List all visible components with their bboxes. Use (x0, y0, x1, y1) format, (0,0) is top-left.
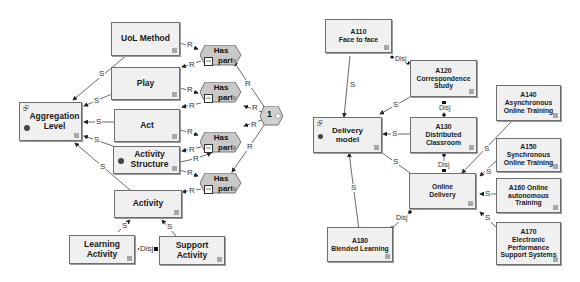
r-label: R (186, 41, 194, 49)
s-label: S (392, 158, 399, 166)
a140-node[interactable]: A140 Asynchronous Online Training (496, 85, 561, 121)
node-label: Play (137, 79, 155, 89)
corner-handle-icon (232, 96, 236, 100)
s-label: S (392, 101, 399, 109)
disj-label: Disj (437, 161, 451, 169)
activity-node[interactable]: Activity (114, 190, 182, 218)
node-label: A110 Face to face (339, 28, 378, 44)
a120-node[interactable]: A120 Correspondence Study (410, 60, 477, 97)
node-label: Online Delivery (429, 183, 455, 199)
node-label: A150 Synchronous Online Training (504, 143, 553, 166)
s-label: S (485, 168, 492, 176)
node-label: A180 Blended Learning (331, 237, 388, 253)
corner-handle-icon (232, 146, 236, 150)
node-label: Aggregation Level (21, 112, 79, 132)
has-part-label-2: part (218, 94, 233, 103)
corner-handle-icon (172, 48, 177, 53)
s-label: S (93, 136, 100, 144)
s-label: S (483, 145, 490, 153)
delivery-model-node[interactable]: ⮺ Delivery model (313, 117, 382, 153)
s-label: S (98, 70, 105, 78)
part-symbol-icon: ⇨ (204, 185, 213, 194)
s-label: S (391, 130, 398, 138)
has-part-node-1[interactable]: Has ⇨ part (200, 45, 242, 66)
corner-handle-icon (469, 89, 474, 94)
act-node[interactable]: Act (114, 109, 180, 142)
corner-handle-icon (385, 254, 390, 259)
corner-handle-icon (172, 134, 177, 139)
dot-icon (118, 158, 124, 164)
aggregation-level-node[interactable]: ⮺ Aggregation Level (19, 102, 82, 141)
corner-handle-icon (553, 257, 558, 262)
node-label: A170 Electronic Performance Support Syst… (501, 228, 557, 259)
s-label: S (121, 222, 128, 230)
corner-handle-icon (232, 187, 236, 191)
r-label: R (188, 187, 196, 195)
a180-node[interactable]: A180 Blended Learning (327, 227, 393, 262)
corner-handle-icon (172, 92, 177, 97)
a130-node[interactable]: A130 Distributed Classroom (410, 117, 477, 153)
has-part-label-1: Has (200, 134, 242, 143)
has-part-label-2: part (218, 185, 233, 194)
corner-handle-icon (553, 164, 558, 169)
corner-handle-icon (74, 133, 79, 138)
has-part-label-1: Has (200, 175, 242, 184)
s-label: S (93, 97, 100, 105)
corner-handle-icon (469, 145, 474, 150)
activity-structure-node[interactable]: Activity Structure (113, 146, 180, 174)
support-activity-node[interactable]: Support Activity (159, 236, 225, 265)
a160-node[interactable]: A160 Online autonomous Training (496, 178, 561, 213)
node-label: A120 Correspondence Study (416, 67, 470, 90)
part-symbol-icon: ⇨ (204, 57, 213, 66)
has-part-node-2[interactable]: Has ⇨ part (200, 82, 242, 103)
s-label: S (349, 81, 356, 89)
has-part-label-1: Has (200, 47, 242, 56)
disj-label: Disj (139, 245, 154, 253)
uol-method-node[interactable]: UoL Method (111, 22, 180, 56)
s-label: S (166, 223, 173, 231)
node-label: Delivery model (332, 126, 363, 144)
corner-handle-icon (553, 113, 558, 118)
corner-handle-icon (174, 210, 179, 215)
r-label: R (246, 143, 254, 151)
r-label: R (251, 104, 259, 112)
s-label: S (95, 118, 102, 126)
learning-activity-node[interactable]: Learning Activity (69, 235, 135, 264)
r-label: R (188, 61, 196, 69)
r-label: R (186, 169, 194, 177)
shape-symbol-icon: ⮺ (23, 105, 29, 113)
has-part-label-2: part (218, 57, 233, 66)
shape-symbol-icon: ⮺ (317, 120, 323, 128)
node-label: A140 Asynchronous Online Training (504, 91, 553, 114)
node-label: Learning Activity (84, 240, 120, 260)
corner-handle-icon (553, 205, 558, 210)
cardinality-value: 1 (267, 110, 272, 120)
dot-icon (318, 134, 323, 139)
s-label: S (484, 190, 491, 198)
node-label: UoL Method (121, 34, 170, 44)
corner-handle-icon (468, 201, 473, 206)
a150-node[interactable]: A150 Synchronous Online Training (496, 138, 561, 172)
has-part-label-1: Has (200, 84, 242, 93)
r-label: R (244, 80, 252, 88)
corner-handle-icon (127, 256, 132, 261)
node-label: A160 Online autonomous Training (508, 184, 549, 207)
corner-handle-icon (374, 145, 379, 150)
a110-node[interactable]: A110 Face to face (325, 19, 392, 53)
online-delivery-node[interactable]: Online Delivery (409, 173, 476, 209)
s-label: S (99, 163, 106, 171)
a170-node[interactable]: A170 Electronic Performance Support Syst… (496, 222, 561, 265)
r-label: R (250, 121, 258, 129)
has-part-node-3[interactable]: Has ⇨ part (200, 132, 242, 153)
play-node[interactable]: Play (111, 67, 180, 100)
corner-handle-icon (232, 59, 236, 63)
dot-icon (24, 125, 30, 131)
r-label: R (186, 128, 194, 136)
corner-handle-icon (172, 166, 177, 171)
r-label: R (188, 102, 196, 110)
cardinality-node[interactable]: 1 (260, 106, 284, 126)
disj-label: Disj (394, 55, 408, 63)
has-part-node-4[interactable]: Has ⇨ part (200, 173, 242, 194)
node-label: A130 Distributed Classroom (426, 123, 462, 146)
r-label: R (192, 155, 200, 163)
